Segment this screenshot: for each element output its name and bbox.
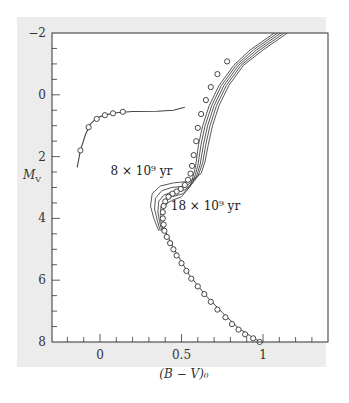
age-annotation: 8 × 10⁹ yr xyxy=(110,164,172,178)
data-point-marker xyxy=(185,177,190,182)
data-point-marker xyxy=(188,171,193,176)
data-point-marker xyxy=(102,113,107,118)
data-point-marker xyxy=(191,153,196,158)
data-point-marker xyxy=(162,228,167,233)
data-point-marker xyxy=(94,116,99,121)
data-point-marker xyxy=(110,111,115,116)
data-point-marker xyxy=(190,163,195,168)
data-point-marker xyxy=(78,148,83,153)
data-point-marker xyxy=(195,284,200,289)
y-tick-label: 2 xyxy=(38,150,46,164)
data-point-marker xyxy=(208,85,213,90)
data-point-marker xyxy=(203,98,208,103)
data-point-marker xyxy=(215,307,220,312)
data-point-marker xyxy=(199,111,204,116)
data-point-marker xyxy=(160,216,165,221)
cmd-chart: 00.51−202468(B − V)₀MV 8 × 10⁹ yr18 × 10… xyxy=(0,0,349,403)
y-tick-label: 0 xyxy=(38,88,46,102)
data-point-marker xyxy=(168,241,173,246)
data-point-marker xyxy=(194,139,199,144)
data-point-marker xyxy=(171,247,176,252)
data-point-marker xyxy=(161,203,166,208)
data-point-marker xyxy=(161,222,166,227)
data-point-marker xyxy=(160,210,165,215)
data-point-marker xyxy=(184,268,189,273)
y-tick-label: −2 xyxy=(28,26,46,40)
age-annotation: 18 × 10⁹ yr xyxy=(171,199,241,213)
data-point-marker xyxy=(174,253,179,258)
data-point-marker xyxy=(189,276,194,281)
x-tick-label: 1 xyxy=(259,348,267,362)
data-point-marker xyxy=(86,125,91,130)
y-tick-label: 8 xyxy=(38,335,46,349)
data-point-marker xyxy=(223,315,228,320)
data-point-marker xyxy=(164,234,169,239)
data-point-marker xyxy=(202,292,207,297)
data-point-marker xyxy=(208,299,213,304)
x-axis-title: (B − V)₀ xyxy=(159,367,209,381)
plot-area xyxy=(52,33,328,342)
data-point-marker xyxy=(120,109,125,114)
data-point-marker xyxy=(251,336,256,341)
data-point-marker xyxy=(179,261,184,266)
data-point-marker xyxy=(236,327,241,332)
y-tick-label: 4 xyxy=(38,211,46,225)
data-point-marker xyxy=(225,59,230,64)
data-point-marker xyxy=(215,72,220,77)
x-tick-label: 0.5 xyxy=(172,348,191,362)
y-tick-label: 6 xyxy=(38,273,46,287)
data-point-marker xyxy=(243,332,248,337)
data-point-marker xyxy=(229,322,234,327)
data-point-marker xyxy=(182,182,187,187)
data-point-marker xyxy=(195,125,200,130)
y-axis-title: MV xyxy=(22,168,41,184)
x-tick-label: 0 xyxy=(96,348,104,362)
